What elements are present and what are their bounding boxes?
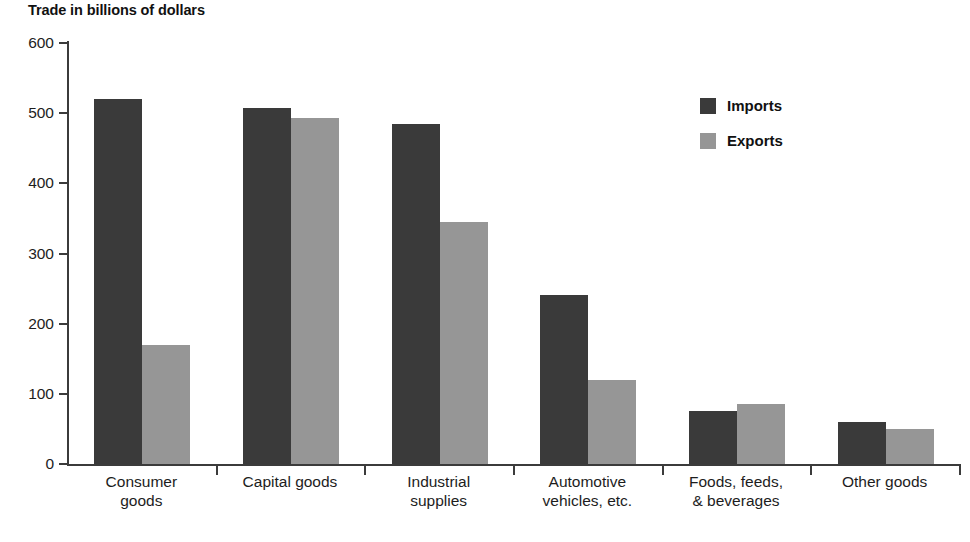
category-label-line: vehicles, etc. [513, 491, 662, 510]
category-label-line: Consumer [67, 472, 216, 491]
category-label-line: Industrial [364, 472, 513, 491]
x-separator-end [959, 466, 961, 475]
bar-exports-5 [886, 429, 934, 464]
category-label-line: Automotive [513, 472, 662, 491]
legend-item-imports: Imports [700, 97, 783, 114]
category-label-line: supplies [364, 491, 513, 510]
category-label-line: Foods, feeds, [662, 472, 811, 491]
bar-exports-2 [440, 222, 488, 464]
y-tick-0 [59, 463, 68, 465]
category-label-line: Capital goods [216, 472, 365, 491]
category-label-line: & beverages [662, 491, 811, 510]
legend-swatch-imports-icon [700, 98, 716, 114]
bar-exports-0 [142, 345, 190, 464]
bar-imports-2 [392, 124, 440, 464]
y-tick-label-200: 200 [28, 315, 54, 333]
y-tick-600 [59, 42, 68, 44]
chart-title: Trade in billions of dollars [28, 2, 205, 18]
category-label-4: Foods, feeds,& beverages [662, 472, 811, 510]
bar-imports-1 [243, 108, 291, 464]
category-label-3: Automotivevehicles, etc. [513, 472, 662, 510]
legend-item-exports: Exports [700, 132, 783, 149]
bar-exports-4 [737, 404, 785, 464]
legend-swatch-exports-icon [700, 133, 716, 149]
y-tick-300 [59, 253, 68, 255]
y-tick-500 [59, 112, 68, 114]
category-label-line: Other goods [810, 472, 959, 491]
y-tick-label-400: 400 [28, 174, 54, 192]
category-label-line: goods [67, 491, 216, 510]
bar-exports-1 [291, 118, 339, 464]
plot-area: 0100200300400500600 [68, 43, 960, 464]
bar-imports-5 [838, 422, 886, 464]
y-tick-label-500: 500 [28, 104, 54, 122]
y-tick-label-600: 600 [28, 34, 54, 52]
y-tick-400 [59, 182, 68, 184]
bar-series-container [68, 43, 960, 464]
y-tick-100 [59, 393, 68, 395]
legend-label-exports: Exports [727, 132, 783, 149]
category-label-1: Capital goods [216, 472, 365, 491]
category-label-5: Other goods [810, 472, 959, 491]
bar-imports-0 [94, 99, 142, 464]
category-label-2: Industrialsupplies [364, 472, 513, 510]
bar-imports-4 [689, 411, 737, 464]
trade-bar-chart: Trade in billions of dollars 01002003004… [0, 0, 970, 542]
y-tick-label-0: 0 [45, 455, 54, 473]
y-tick-label-300: 300 [28, 245, 54, 263]
bar-exports-3 [588, 380, 636, 464]
category-label-0: Consumergoods [67, 472, 216, 510]
chart-legend: Imports Exports [700, 97, 783, 167]
y-tick-label-100: 100 [28, 385, 54, 403]
y-tick-200 [59, 323, 68, 325]
legend-label-imports: Imports [727, 97, 782, 114]
bar-imports-3 [540, 295, 588, 464]
